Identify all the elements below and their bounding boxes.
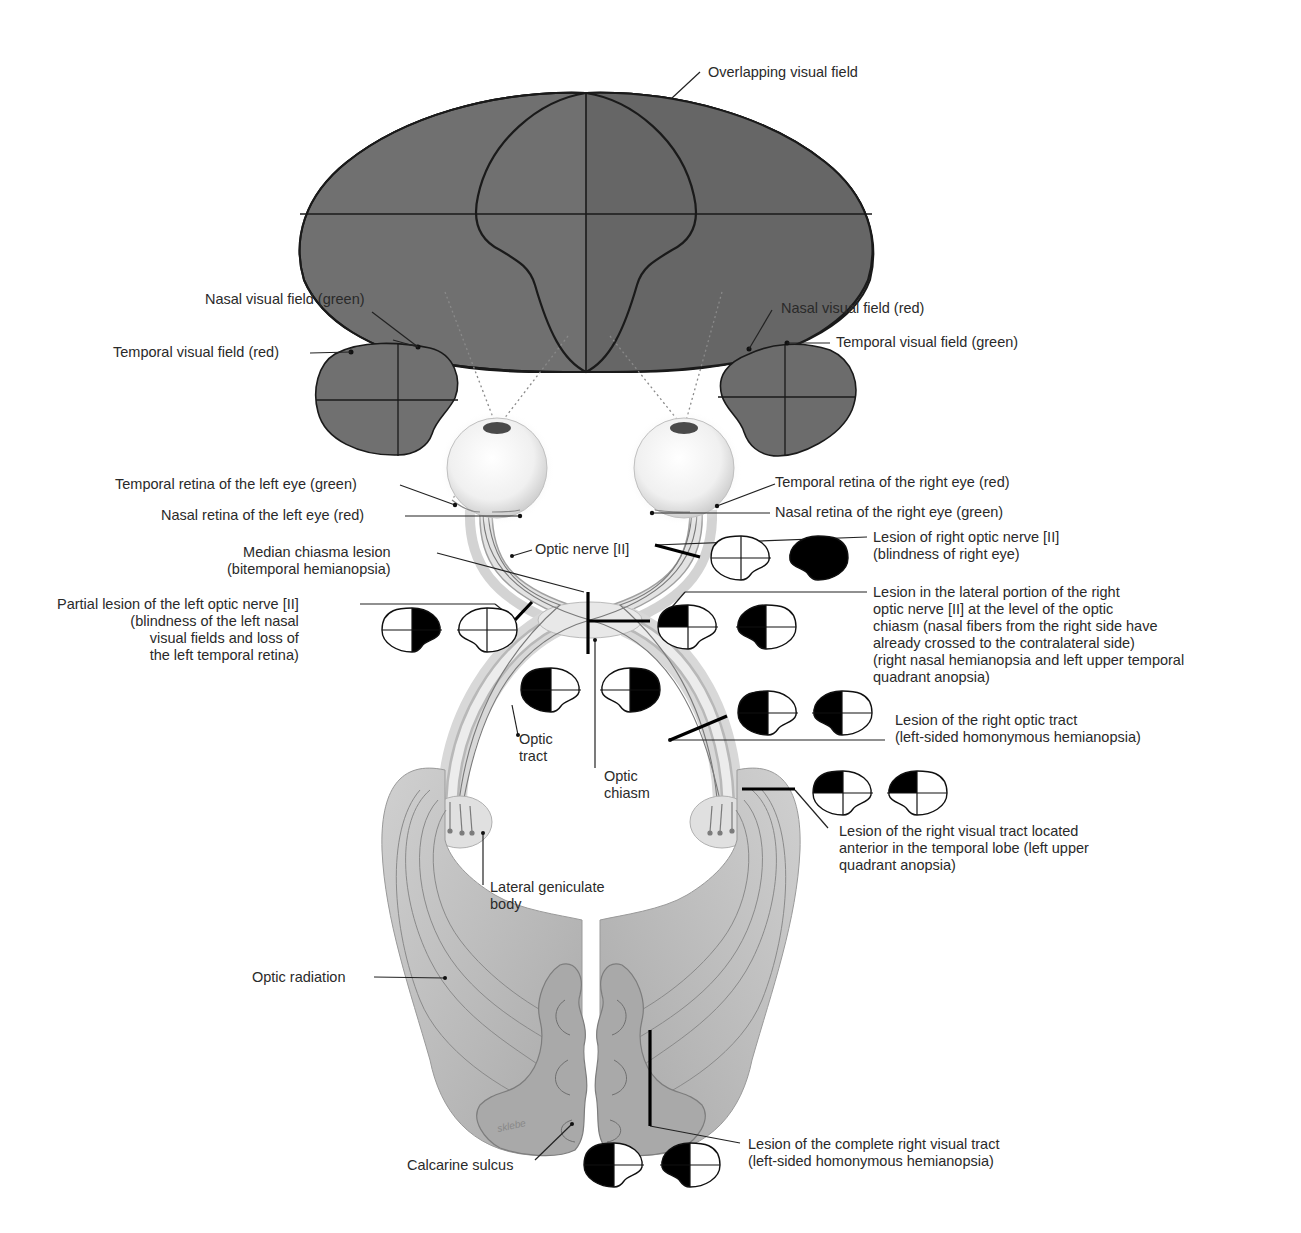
optic-radiation: sklebe xyxy=(382,768,800,1156)
label-right-nerve-lesion: Lesion of right optic nerve [II] (blindn… xyxy=(873,529,1059,563)
field-border xyxy=(790,536,848,580)
label-temporal-lobe-lesion: Lesion of the right visual tract located… xyxy=(839,823,1089,874)
label-right-optic-tract-lesion: Lesion of the right optic tract (left-si… xyxy=(895,712,1141,746)
blind-quadrant-lower-left xyxy=(732,627,766,653)
right-eye xyxy=(626,410,742,526)
label-left-temporal-retina: Temporal retina of the left eye (green) xyxy=(115,476,357,493)
blind-quadrant-lower-left xyxy=(656,1165,690,1191)
label-left-nasal-retina: Nasal retina of the left eye (red) xyxy=(161,507,364,524)
label-complete-tract-lesion: Lesion of the complete right visual trac… xyxy=(748,1136,999,1170)
label-right-temporal-retina: Temporal retina of the right eye (red) xyxy=(775,474,1010,491)
blind-quadrant-lower-left xyxy=(808,713,842,739)
label-partial-left-nerve-lesion: Partial lesion of the left optic nerve [… xyxy=(57,596,299,664)
blind-quadrant-lower-right xyxy=(412,630,446,656)
field-icon-lateral-right-optic-nerve-at-chiasm-right-eye xyxy=(732,601,796,653)
label-optic-chiasm: Optic chiasm xyxy=(604,768,650,802)
overlapping-visual-field xyxy=(300,93,874,372)
label-overlapping-visual-field: Overlapping visual field xyxy=(708,64,858,81)
label-right-temporal-visual-field: Temporal visual field (green) xyxy=(836,334,1018,351)
field-icon-right-optic-tract-right-eye xyxy=(808,687,872,739)
label-lateral-right-nerve-lesion: Lesion in the lateral portion of the rig… xyxy=(873,584,1184,686)
label-calcarine-sulcus: Calcarine sulcus xyxy=(407,1157,513,1174)
field-icon-right-anterior-temporal-lobe-right-eye xyxy=(883,767,947,815)
field-icon-median-chiasma-left-eye xyxy=(517,664,581,716)
label-left-temporal-visual-field: Temporal visual field (red) xyxy=(113,344,279,361)
label-optic-nerve: Optic nerve [II] xyxy=(535,541,629,558)
field-icon-right-anterior-temporal-lobe-left-eye xyxy=(809,767,873,815)
label-optic-radiation: Optic radiation xyxy=(252,969,346,986)
left-iris xyxy=(483,422,511,434)
field-icon-right-optic-tract-left-eye xyxy=(734,687,798,739)
left-eye xyxy=(439,410,555,526)
field-icon-partial-left-optic-nerve-right-eye xyxy=(457,608,517,652)
optic-pathway xyxy=(428,510,754,848)
label-median-chiasma-lesion: Median chiasma lesion (bitemporal hemian… xyxy=(227,544,391,578)
field-icon-median-chiasma-right-eye xyxy=(600,664,664,716)
right-iris xyxy=(670,422,698,434)
left-eye-visual-field xyxy=(316,343,458,456)
field-icon-right-optic-nerve-left-eye xyxy=(711,536,771,580)
label-right-nasal-retina: Nasal retina of the right eye (green) xyxy=(775,504,1003,521)
label-optic-tract: Optic tract xyxy=(519,731,553,765)
label-left-nasal-visual-field: Nasal visual field (green) xyxy=(205,291,365,308)
right-half-shade xyxy=(586,93,872,372)
label-right-nasal-visual-field: Nasal visual field (red) xyxy=(781,300,924,317)
field-icon-partial-left-optic-nerve-left-eye xyxy=(382,604,446,656)
label-lateral-geniculate-body: Lateral geniculate body xyxy=(490,879,604,913)
